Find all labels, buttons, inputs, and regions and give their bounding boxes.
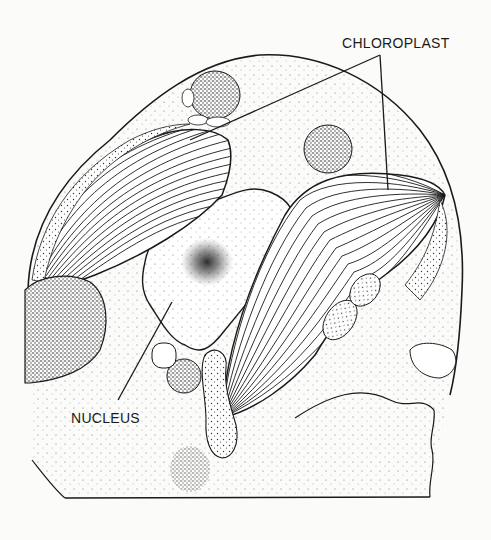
nucleus-label: NUCLEUS bbox=[71, 410, 140, 426]
nucleolus bbox=[181, 238, 233, 286]
dense-body-top bbox=[190, 71, 240, 119]
cell-diagram: CHLOROPLAST NUCLEUS bbox=[0, 0, 491, 540]
chloroplast-label: CHLOROPLAST bbox=[342, 35, 450, 51]
cell-illustration bbox=[0, 0, 491, 540]
dense-body-mid bbox=[304, 125, 352, 173]
